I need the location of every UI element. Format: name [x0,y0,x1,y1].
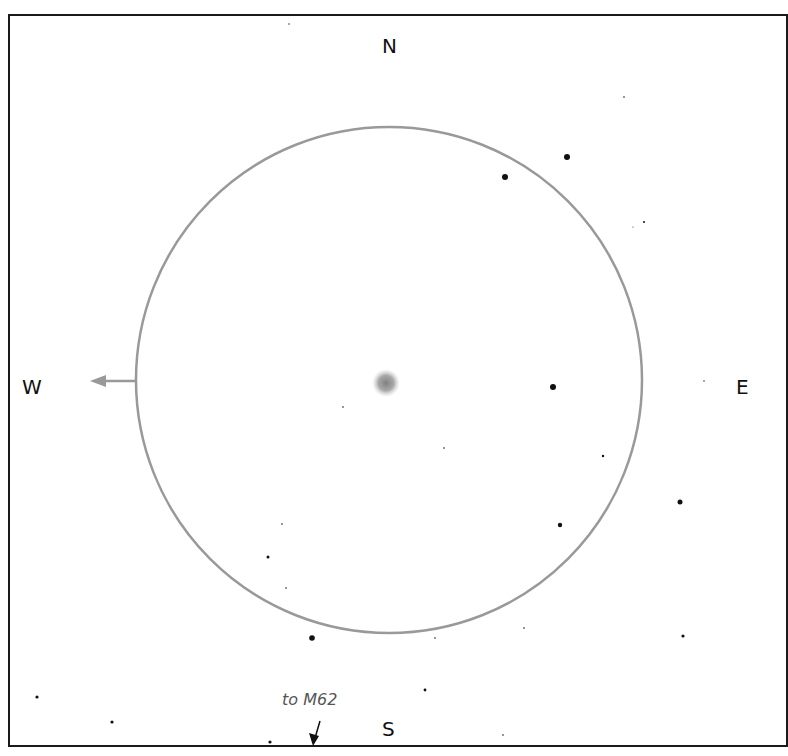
star-icon [550,384,556,390]
star-icon [502,734,504,736]
star-icon [623,96,625,98]
star-icon [523,627,525,629]
west-arrow-icon [90,375,136,387]
star-icon [703,380,704,381]
star-icon [285,587,287,589]
globular-cluster-icon [372,369,400,397]
south-label: S [382,717,395,741]
star-icon [681,634,684,637]
star-icon [309,635,315,641]
star-icon [35,695,38,698]
star-icon [564,154,570,160]
star-icon [267,556,270,559]
north-label: N [382,34,397,58]
star-icon [602,455,604,457]
star-icon [558,523,562,527]
to-m62-label: to M62 [282,690,337,709]
star-icon [288,23,289,24]
star-icon [434,637,436,639]
star-icon [342,406,344,408]
star-icon [424,689,427,692]
star-icon [443,447,445,449]
star-icon [110,720,113,723]
star-icon [678,500,683,505]
star-icon [643,221,645,223]
star-icon [268,740,271,743]
star-icon [281,523,283,525]
west-label: W [22,375,42,399]
star-icon [633,227,634,228]
east-label: E [736,375,749,399]
down-arrow-icon [309,721,320,746]
star-icon [502,174,508,180]
